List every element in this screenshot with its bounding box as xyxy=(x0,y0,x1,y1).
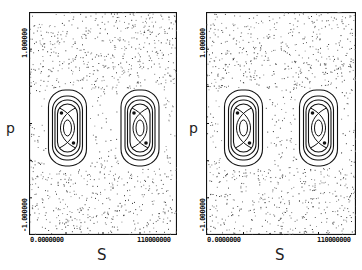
x-tick-min: 0.0000000 xyxy=(207,236,240,244)
x-tick-min: 0.0000000 xyxy=(30,236,63,244)
plot-area xyxy=(29,12,177,235)
left-phase-plot: p S 0.0000000 110000000 1.000000 -1.0000… xyxy=(0,0,181,270)
y-axis-label: p xyxy=(189,120,198,136)
x-axis-label: S xyxy=(97,246,107,264)
right-phase-plot: p S 0.0000000 110000000 1.000000 -1.0000… xyxy=(181,0,362,270)
x-tick-max: 110000000 xyxy=(317,236,350,244)
x-axis-label: S xyxy=(275,246,285,264)
x-tick-max: 110000000 xyxy=(137,236,170,244)
plot-area xyxy=(206,12,356,235)
y-tick-min: -1.000000 xyxy=(21,199,29,232)
y-tick-max: 1.000000 xyxy=(21,28,29,58)
y-axis-label: p xyxy=(6,120,15,136)
